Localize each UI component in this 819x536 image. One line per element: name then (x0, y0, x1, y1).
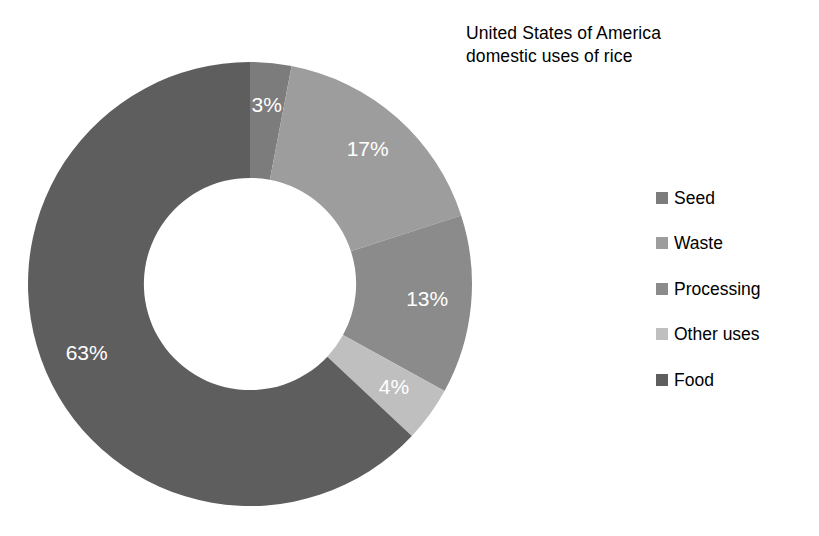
legend-item-label: Waste (674, 233, 723, 253)
legend-item-label: Food (674, 370, 714, 390)
slice-data-label-other-uses: 4% (379, 375, 409, 398)
chart-title: United States of America domestic uses o… (466, 22, 766, 68)
legend-item-other-uses[interactable]: Other uses (656, 323, 811, 346)
legend-swatch-icon (656, 328, 668, 340)
legend-item-seed[interactable]: Seed (656, 186, 811, 209)
slice-data-label-food: 63% (66, 341, 108, 364)
legend-swatch-icon (656, 283, 668, 295)
legend-swatch-icon (656, 374, 668, 386)
legend-swatch-icon (656, 237, 668, 249)
slice-group (28, 62, 472, 506)
legend-item-waste[interactable]: Waste (656, 232, 811, 255)
legend-item-food[interactable]: Food (656, 368, 811, 391)
legend-item-processing[interactable]: Processing (656, 277, 811, 300)
chart-legend: SeedWasteProcessingOther usesFood (656, 186, 811, 414)
legend-item-label: Seed (674, 188, 715, 208)
legend-item-label: Processing (674, 279, 761, 299)
donut-chart-figure: United States of America domestic uses o… (0, 0, 819, 536)
legend-swatch-icon (656, 192, 668, 204)
slice-data-label-seed: 3% (252, 93, 282, 116)
slice-data-label-waste: 17% (347, 137, 389, 160)
legend-item-label: Other uses (674, 324, 760, 344)
donut-svg: 3%17%13%4%63% (24, 58, 476, 510)
donut-plot-area: 3%17%13%4%63% (24, 58, 476, 510)
slice-data-label-processing: 13% (406, 287, 448, 310)
